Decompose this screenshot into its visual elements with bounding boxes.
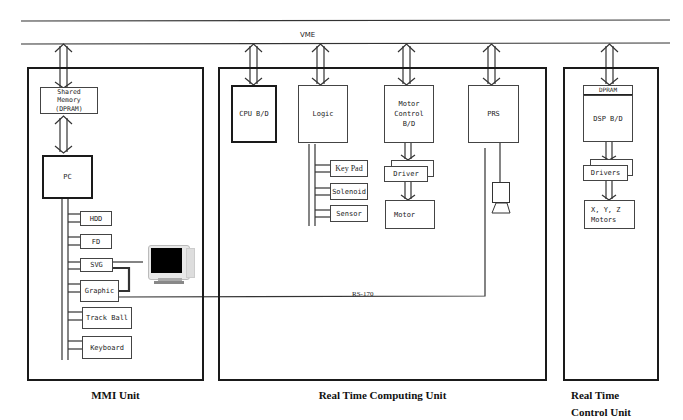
graphic-box: Graphic: [80, 280, 119, 302]
shared-memory-box: Shared Memory (DPRAM): [40, 87, 98, 114]
pc-box: PC: [42, 155, 93, 199]
fd-box: FD: [80, 234, 112, 249]
vme-bus-bottom-line: [21, 43, 670, 44]
camera-icon: [490, 182, 514, 215]
mmi-unit-frame: [27, 67, 204, 381]
vme-bus-top-line: [21, 20, 670, 21]
driver-box: Driver: [384, 166, 428, 182]
keyboard-box: Keyboard: [82, 336, 132, 359]
motor-control-box: Motor Control B/D: [384, 85, 434, 143]
drivers-box: Drivers: [583, 165, 628, 181]
hdd-box: HDD: [80, 211, 112, 226]
cpu-board-box: CPU B/D: [231, 85, 277, 143]
logic-box: Logic: [298, 85, 348, 143]
solenoid-box: Solenoid: [330, 183, 368, 200]
dsp-board-box: DSP B/D: [583, 95, 633, 142]
prs-box: PRS: [468, 85, 519, 143]
keypad-box: Key Pad: [330, 160, 368, 177]
motor-box: Motor: [385, 200, 435, 229]
svg-box: SVG: [80, 258, 113, 272]
mmi-unit-label: MMI Unit: [27, 389, 204, 401]
track-ball-box: Track Ball: [82, 307, 132, 329]
monitor-icon: [148, 245, 194, 285]
sensor-box: Sensor: [330, 205, 368, 222]
rtctl-label: Real Time Control Unit: [558, 387, 667, 420]
rs170-label: RS-170: [352, 290, 373, 298]
xyz-motors-box: X, Y, Z Motors: [584, 200, 635, 229]
vme-bus-label: VME: [300, 31, 315, 39]
rtcu-label: Real Time Computing Unit: [218, 389, 547, 401]
